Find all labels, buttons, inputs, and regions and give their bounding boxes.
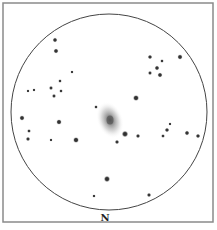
star (148, 55, 152, 59)
star (133, 95, 139, 101)
star (53, 38, 57, 42)
star (59, 89, 62, 92)
star (169, 123, 172, 126)
star (27, 129, 31, 133)
star (52, 94, 56, 98)
star (115, 140, 119, 144)
star (57, 120, 62, 125)
star (160, 59, 163, 62)
star (122, 131, 128, 137)
star (196, 134, 200, 138)
star (26, 137, 30, 141)
galaxy-core (107, 116, 114, 125)
star (148, 71, 152, 75)
star (73, 137, 78, 142)
star (158, 73, 163, 78)
star (20, 116, 25, 121)
star (50, 139, 53, 142)
star (155, 66, 159, 70)
star (92, 194, 95, 197)
star (94, 105, 97, 108)
star (136, 134, 140, 138)
star (49, 86, 53, 90)
star (178, 55, 183, 60)
star (104, 176, 110, 182)
star (161, 134, 165, 138)
eyepiece-sketch (0, 0, 217, 230)
star (54, 49, 59, 54)
star (71, 71, 74, 74)
star (33, 89, 36, 92)
star (58, 79, 61, 82)
star (165, 128, 169, 132)
star (147, 193, 151, 197)
north-orientation-label: N (98, 212, 112, 223)
star (27, 90, 30, 93)
star (185, 131, 189, 135)
